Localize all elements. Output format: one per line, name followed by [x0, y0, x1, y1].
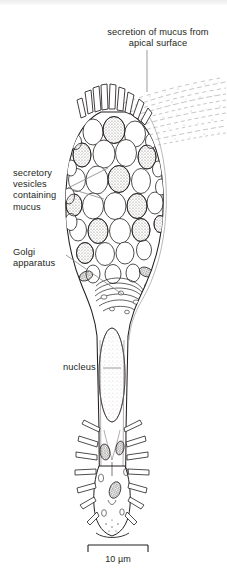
goblet-cell-illustration: [0, 0, 227, 583]
figure-canvas: secretion of mucus from apical surface s…: [0, 0, 227, 583]
nucleus: [99, 328, 125, 422]
label-nucleus: nucleus: [63, 362, 96, 373]
label-apical-secretion: secretion of mucus from apical surface: [97, 27, 219, 49]
scale-bar: [88, 545, 148, 552]
label-golgi-apparatus: Golgi apparatus: [13, 247, 55, 269]
mucus-plume-stipple: [150, 82, 221, 140]
label-secretory-vesicles: secretory vesicles containing mucus: [13, 168, 56, 213]
label-scale-bar: 10 µm: [88, 554, 148, 565]
